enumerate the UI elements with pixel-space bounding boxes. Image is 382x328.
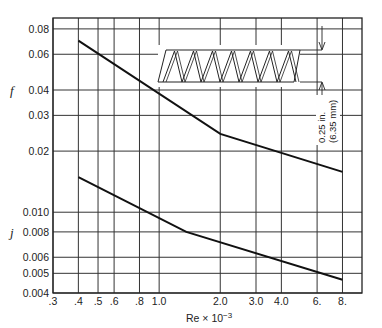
dimension-label-mm: (6.35 mm) (327, 100, 338, 143)
dimension-label-in: 0.25 in. (316, 112, 327, 143)
x-tick-label: .5 (94, 295, 103, 307)
x-axis-label: Re × 10−3 (186, 311, 233, 324)
y-tick-label: 0.010 (23, 206, 49, 218)
x-tick-label: 6. (313, 295, 322, 307)
x-tick-label: 4.0 (274, 295, 289, 307)
x-tick-label: .8 (135, 295, 144, 307)
x-tick-label: 1.0 (152, 295, 167, 307)
y-axis-label-j: j (8, 225, 14, 240)
y-tick-label: 0.008 (23, 226, 49, 238)
y-tick-label: 0.005 (23, 267, 49, 279)
y-tick-label: 0.006 (23, 251, 49, 263)
x-tick-label: 3.0 (249, 295, 264, 307)
y-tick-label: 0.08 (29, 23, 50, 35)
x-tick-label: .6 (110, 295, 119, 307)
x-tick-label: .4 (74, 295, 83, 307)
friction-colburn-chart: 0.25 in. (6.35 mm) .3.4.5.6.81.02.03.04.… (0, 0, 382, 328)
y-tick-label: 0.004 (23, 287, 49, 299)
y-axis-label-f: f (10, 83, 16, 98)
x-tick-label: 2.0 (213, 295, 228, 307)
y-tick-label: 0.03 (29, 109, 50, 121)
fin-inset-drawing: 0.25 in. (6.35 mm) (158, 26, 340, 145)
y-tick-label: 0.06 (29, 48, 50, 60)
y-tick-label: 0.04 (29, 84, 50, 96)
x-tick-label: 8. (338, 295, 347, 307)
y-tick-label: 0.02 (29, 145, 50, 157)
series-line-j (78, 177, 342, 280)
x-tick-label: .3 (49, 295, 58, 307)
